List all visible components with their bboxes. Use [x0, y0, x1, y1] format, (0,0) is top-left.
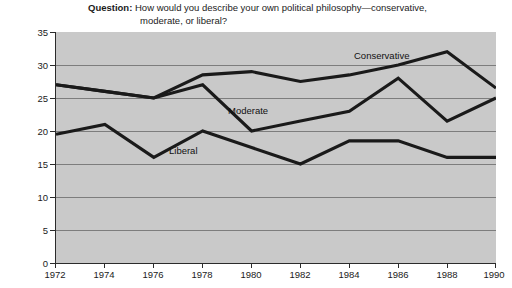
x-tick-label-1972: 1972 — [35, 269, 75, 280]
question-text-part-2: moderate, or liberal? — [140, 15, 418, 28]
y-tick-label-0: 0 — [22, 258, 48, 269]
y-tick-label-35: 35 — [22, 27, 48, 38]
series-label-conservative: Conservative — [354, 50, 409, 61]
chart-title: Question: How would you describe your ow… — [88, 2, 418, 27]
chart-figure: Question: How would you describe your ow… — [0, 0, 512, 288]
x-tick-label-1976: 1976 — [133, 269, 173, 280]
x-tick-label-1974: 1974 — [84, 269, 124, 280]
x-tick-mark-1986 — [398, 263, 399, 268]
y-tick-label-15: 15 — [22, 159, 48, 170]
question-text-part-1: How would you describe your own politica… — [132, 2, 427, 13]
x-tick-mark-1976 — [153, 263, 154, 268]
x-tick-label-1986: 1986 — [378, 269, 418, 280]
x-tick-mark-1990 — [495, 263, 496, 268]
x-tick-label-1980: 1980 — [231, 269, 271, 280]
chart-title-line-1: Question: How would you describe your ow… — [88, 2, 418, 15]
x-tick-mark-1974 — [104, 263, 105, 268]
question-label: Question: — [88, 2, 132, 13]
y-tick-label-5: 5 — [22, 225, 48, 236]
plot-area: Conservative Moderate Liberal — [55, 32, 496, 264]
x-tick-label-1990: 1990 — [474, 269, 512, 280]
x-tick-label-1982: 1982 — [280, 269, 320, 280]
y-axis-labels: 35 30 25 20 15 10 5 0 — [0, 0, 48, 288]
x-tick-label-1984: 1984 — [329, 269, 369, 280]
y-tick-label-10: 10 — [22, 192, 48, 203]
y-tick-label-25: 25 — [22, 93, 48, 104]
x-tick-label-1988: 1988 — [427, 269, 467, 280]
x-tick-mark-1988 — [447, 263, 448, 268]
x-tick-mark-1982 — [300, 263, 301, 268]
x-tick-mark-1978 — [202, 263, 203, 268]
x-tick-mark-1980 — [251, 263, 252, 268]
series-label-liberal: Liberal — [169, 145, 198, 156]
x-tick-mark-1972 — [55, 263, 56, 268]
series-inline-labels: Conservative Moderate Liberal — [56, 32, 496, 263]
x-tick-mark-1984 — [349, 263, 350, 268]
y-tick-label-20: 20 — [22, 126, 48, 137]
series-label-moderate: Moderate — [228, 105, 268, 116]
y-tick-label-30: 30 — [22, 60, 48, 71]
x-tick-label-1978: 1978 — [182, 269, 222, 280]
